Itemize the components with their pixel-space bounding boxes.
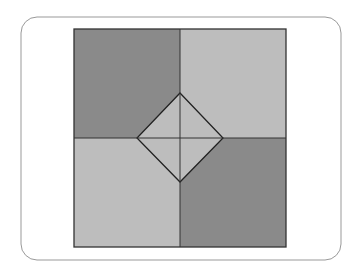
geometry-diagram <box>0 0 360 277</box>
